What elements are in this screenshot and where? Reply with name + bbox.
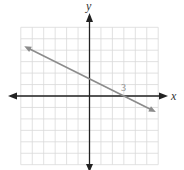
- coordinate-plane: x y 3: [0, 0, 184, 170]
- x-intercept-label: 3: [121, 82, 126, 93]
- y-axis-down-arrow-icon: [86, 164, 93, 170]
- x-axis-label: x: [170, 89, 177, 103]
- x-axis-left-arrow-icon: [8, 93, 17, 100]
- y-axis-label: y: [85, 0, 92, 13]
- x-axis-right-arrow-icon: [159, 93, 168, 100]
- y-axis-up-arrow-icon: [86, 13, 93, 22]
